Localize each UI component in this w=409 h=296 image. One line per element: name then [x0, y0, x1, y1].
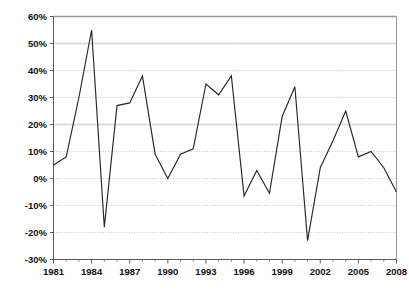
x-tick-label: 1996 [233, 266, 254, 277]
x-tick-label: 1999 [272, 266, 293, 277]
y-axis-ticks: -30%-20%-10%0%10%20%30%40%50%60% [25, 11, 54, 265]
x-tick-label: 1984 [81, 266, 103, 277]
line-chart: -30%-20%-10%0%10%20%30%40%50%60%19811984… [0, 0, 409, 296]
y-tick-label: -10% [25, 200, 48, 211]
chart-figure: -30%-20%-10%0%10%20%30%40%50%60%19811984… [0, 0, 409, 296]
x-tick-label: 1993 [195, 266, 216, 277]
y-tick-label: -20% [25, 227, 48, 238]
x-axis-ticks: 1981198419871990199319961999200220052008 [43, 260, 407, 277]
y-tick-label: -30% [25, 254, 48, 265]
y-tick-label: 10% [28, 146, 48, 157]
x-tick-label: 2005 [348, 266, 370, 277]
y-tick-label: 30% [28, 92, 48, 103]
x-tick-label: 1990 [157, 266, 178, 277]
y-tick-label: 60% [28, 11, 48, 22]
x-tick-label: 2008 [386, 266, 407, 277]
x-tick-label: 1987 [119, 266, 140, 277]
x-tick-label: 2002 [310, 266, 331, 277]
y-tick-label: 40% [28, 65, 48, 76]
gridlines [54, 44, 397, 260]
y-tick-label: 20% [28, 119, 48, 130]
y-tick-label: 50% [28, 38, 48, 49]
data-series-line [54, 30, 397, 241]
y-tick-label: 0% [33, 173, 47, 184]
x-tick-label: 1981 [43, 266, 65, 277]
